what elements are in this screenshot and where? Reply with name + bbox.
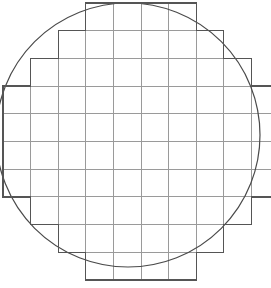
wafer-diagram-canvas [0, 0, 271, 288]
wafer-outline-circle [0, 3, 260, 267]
wafer-die-grid-figure [0, 0, 271, 288]
wafer-edge-circle [0, 3, 260, 267]
die-grid [3, 3, 271, 280]
